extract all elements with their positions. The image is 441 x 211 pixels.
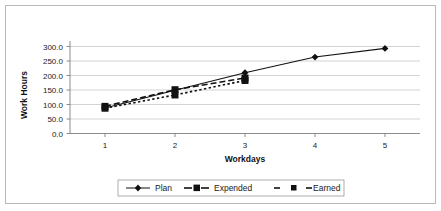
legend-label-expended: Expended — [214, 183, 253, 193]
data-point-plan-4 — [312, 54, 319, 61]
data-point-plan-5 — [382, 45, 389, 52]
data-point-earned-2 — [172, 91, 179, 98]
legend-label-plan: Plan — [155, 183, 172, 193]
y-tick-label: 250.0 — [43, 57, 64, 66]
chart-svg: 300.0 250.0 200.0 150.0 100.0 50.0 0.0 1… — [0, 0, 441, 211]
x-tick-label: 3 — [243, 141, 248, 150]
x-axis-title: Workdays — [225, 154, 266, 164]
y-axis-tick-labels: 300.0 250.0 200.0 150.0 100.0 50.0 0.0 — [43, 43, 64, 139]
chart-image-frame: 300.0 250.0 200.0 150.0 100.0 50.0 0.0 1… — [0, 0, 441, 211]
y-tick-label: 100.0 — [43, 101, 64, 110]
x-tick-label: 4 — [313, 141, 318, 150]
data-point-earned-3 — [242, 77, 249, 84]
line-chart: 300.0 250.0 200.0 150.0 100.0 50.0 0.0 1… — [0, 0, 441, 211]
y-tick-label: 150.0 — [43, 86, 64, 95]
series-markers — [102, 45, 389, 112]
y-tick-label: 50.0 — [47, 115, 63, 124]
y-tick-label: 300.0 — [43, 43, 64, 52]
x-axis-tick-labels: 1 2 3 4 5 — [103, 141, 388, 150]
x-axis-ticks — [105, 134, 385, 138]
data-point-earned-1 — [102, 105, 109, 112]
y-tick-label: 200.0 — [43, 72, 64, 81]
x-tick-label: 2 — [173, 141, 178, 150]
x-tick-label: 5 — [383, 141, 388, 150]
axis-lines — [70, 41, 420, 134]
x-tick-label: 1 — [103, 141, 108, 150]
y-tick-label: 0.0 — [52, 130, 64, 139]
legend-label-earned: Earned — [313, 183, 341, 193]
chart-legend: Plan Expended Earned — [118, 180, 344, 196]
y-axis-ticks — [67, 47, 71, 134]
y-axis-title: Work Hours — [19, 71, 29, 119]
